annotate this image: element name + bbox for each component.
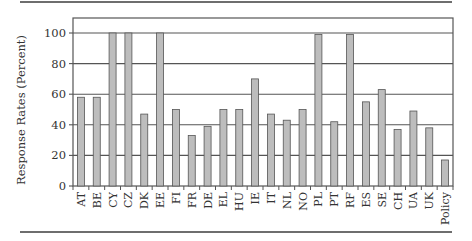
bar-ua (410, 111, 417, 186)
x-tick-label: NL (281, 191, 294, 209)
x-tick-label: FI (170, 192, 183, 204)
x-tick-label: HU (233, 192, 246, 211)
bar-pl (315, 35, 322, 186)
x-tick-label: ES (360, 192, 373, 208)
y-tick-label: 80 (51, 57, 66, 71)
bar-nl (283, 120, 290, 186)
x-tick-label: PT (328, 191, 341, 206)
bar-it (267, 114, 274, 186)
x-tick-label: AT (75, 191, 88, 207)
y-tick-label: 40 (51, 118, 66, 132)
bottom-rule (20, 231, 452, 233)
bar-fr (188, 136, 195, 186)
x-tick-label: EE (154, 192, 167, 208)
x-tick-label: BE (91, 192, 104, 208)
y-tick-label: 60 (51, 87, 66, 101)
bar-policy (442, 160, 449, 186)
x-tick-label: IE (249, 192, 262, 204)
bar-at (77, 97, 84, 186)
y-tick-label: 20 (51, 148, 66, 162)
bar-de (204, 126, 211, 186)
bar-fi (172, 110, 179, 187)
bar-cy (109, 33, 116, 186)
x-tick-label: UK (423, 191, 436, 209)
y-tick-label: 0 (59, 179, 66, 193)
y-axis-ticks: 020406080100 (44, 26, 73, 193)
bar-chart: 020406080100 ATBECYCZDKEEFIFRDEELHUIEITN… (0, 0, 472, 241)
x-tick-label: FR (186, 191, 199, 208)
x-tick-label: EL (217, 191, 230, 207)
bar-hu (236, 110, 243, 187)
x-tick-label: CY (107, 191, 120, 207)
x-tick-label: PL (312, 191, 325, 206)
bar-es (362, 102, 369, 186)
x-tick-label: NO (297, 192, 310, 211)
bar-ee (157, 33, 164, 186)
bar-cz (125, 33, 132, 186)
x-tick-label: CH (392, 192, 405, 210)
bar-ch (394, 129, 401, 186)
x-tick-label: UA (407, 191, 420, 209)
bar-be (93, 97, 100, 186)
x-tick-label: IT (265, 191, 278, 203)
bars (77, 33, 448, 186)
x-axis-ticks: ATBECYCZDKEEFIFRDEELHUIEITNLNOPLPTRFESSE… (73, 186, 453, 225)
bar-dk (141, 114, 148, 186)
x-tick-label: Policy (439, 191, 452, 225)
x-tick-label: RF (344, 192, 357, 208)
y-axis-label: Response Rates (Percent) (14, 35, 28, 185)
bar-uk (426, 128, 433, 186)
x-tick-label: SE (376, 192, 389, 208)
x-tick-label: DE (202, 192, 215, 209)
bar-el (220, 110, 227, 187)
bar-pt (331, 122, 338, 186)
y-tick-label: 100 (44, 26, 66, 40)
bar-rf (347, 35, 354, 186)
x-tick-label: DK (138, 191, 151, 209)
bar-ie (252, 79, 259, 186)
x-tick-label: CZ (122, 192, 135, 208)
bar-no (299, 110, 306, 187)
bar-se (378, 90, 385, 186)
